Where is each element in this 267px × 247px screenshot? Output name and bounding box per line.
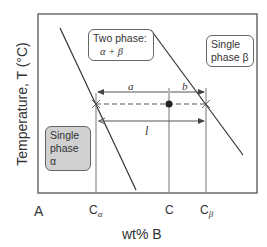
y-axis-label: Temperature, T (°C) [14,34,30,174]
c-beta-tick-label: Cβ [200,203,213,217]
two-phase-label: Two phase: α + β [88,29,154,61]
c-alpha-tick-label: Cα [89,203,102,217]
c-alpha-main: C [89,203,98,217]
single-phase-alpha-label: Single phase α [45,126,91,171]
c-beta-main: C [200,203,209,217]
single-beta-line2: phase β [211,51,249,64]
c-beta-sub: β [209,209,213,219]
c-alpha-sub: α [98,209,103,219]
single-phase-beta-label: Single phase β [206,35,254,67]
two-phase-line2: α + β [93,45,149,58]
alloy-point [166,101,173,108]
x-origin-label: A [34,203,43,219]
single-alpha-line2: phase α [50,142,86,168]
lever-b-label: b [182,80,188,92]
lever-l-label: l [145,124,148,139]
x-axis-label: wt% B [122,226,162,242]
two-phase-line1: Two phase: [93,32,149,45]
single-alpha-line1: Single [50,129,86,142]
single-beta-line1: Single [211,38,249,51]
c-tick-label: C [165,203,174,217]
lever-a-label: a [128,80,134,92]
